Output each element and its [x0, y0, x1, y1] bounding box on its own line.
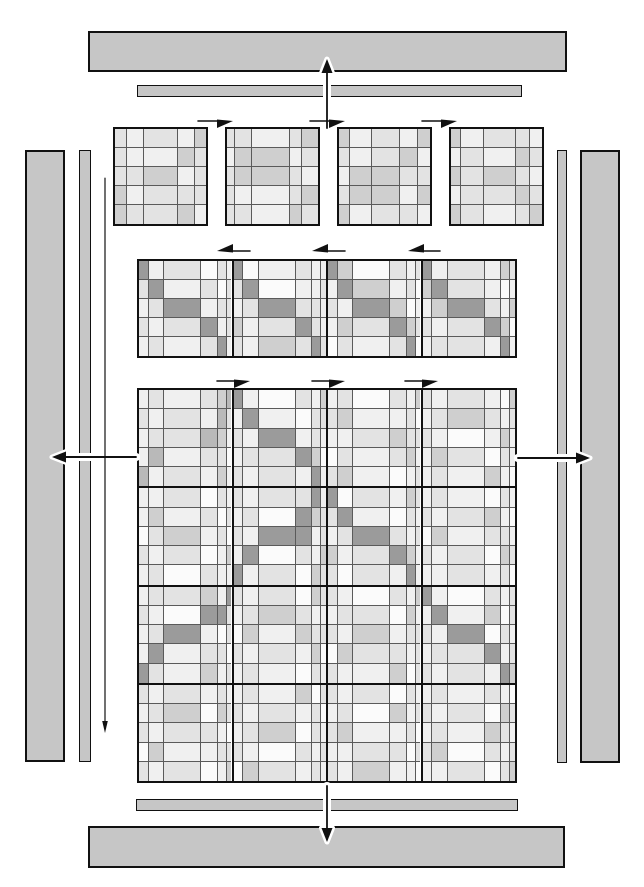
matrix-cell: [139, 704, 149, 723]
matrix-cell: [432, 723, 448, 742]
matrix-cell: [416, 318, 421, 337]
matrix-cell: [321, 587, 326, 606]
matrix-cell: [485, 704, 502, 723]
matrix-cell: [390, 409, 407, 428]
matrix-cell: [218, 299, 227, 318]
matrix-cell: [252, 148, 290, 167]
matrix-cell: [448, 390, 485, 409]
matrix-cell: [353, 723, 390, 742]
matrix-cell: [372, 205, 401, 224]
matrix-cell: [501, 685, 510, 704]
small-matrix-2: [225, 127, 320, 226]
small-matrix-4-block-1-1: [451, 129, 542, 224]
matrix-cell: [516, 148, 529, 167]
matrix-cell: [312, 743, 321, 762]
matrix-cell: [164, 704, 201, 723]
matrix-cell: [510, 606, 515, 625]
matrix-cell: [312, 565, 321, 584]
matrix-cell: [218, 448, 227, 467]
matrix-cell: [485, 488, 502, 507]
matrix-cell: [149, 606, 165, 625]
matrix-cell: [339, 148, 350, 167]
matrix-cell: [201, 467, 218, 486]
matrix-cell: [416, 527, 421, 546]
matrix-cell: [407, 429, 416, 448]
matrix-cell: [201, 546, 218, 565]
matrix-cell: [432, 527, 448, 546]
matrix-cell: [218, 488, 227, 507]
matrix-cell: [407, 337, 416, 356]
matrix-cell: [149, 429, 165, 448]
matrix-cell: [243, 587, 259, 606]
matrix-cell: [485, 508, 502, 527]
matrix-cell: [338, 488, 354, 507]
matrix-cell: [234, 723, 244, 742]
matrix-cell: [243, 565, 259, 584]
matrix-cell: [390, 762, 407, 781]
matrix-cell: [218, 625, 227, 644]
matrix-cell: [234, 743, 244, 762]
matrix-cell: [218, 606, 227, 625]
matrix-cell: [235, 148, 252, 167]
matrix-cell: [234, 527, 244, 546]
matrix-cell: [164, 565, 201, 584]
matrix-cell: [227, 762, 232, 781]
matrix-cell: [218, 565, 227, 584]
matrix-cell: [407, 606, 416, 625]
small-matrix-2-block-1-1: [227, 129, 318, 224]
matrix-cell: [234, 704, 244, 723]
matrix-cell: [227, 205, 235, 224]
matrix-cell: [448, 587, 485, 606]
matrix-cell: [296, 467, 313, 486]
matrix-cell: [432, 448, 448, 467]
matrix-cell: [149, 644, 165, 663]
matrix-cell: [227, 429, 232, 448]
matrix-cell: [400, 205, 417, 224]
matrix-cell: [302, 205, 318, 224]
matrix-cell: [353, 508, 390, 527]
matrix-cell: [407, 527, 416, 546]
matrix-cell: [338, 318, 354, 337]
matrix-cell: [234, 587, 244, 606]
matrix-cell: [201, 743, 218, 762]
matrix-cell: [149, 723, 165, 742]
flow-arrow-strip-1: [205, 239, 262, 263]
matrix-cell: [227, 606, 232, 625]
matrix-cell: [390, 704, 407, 723]
matrix-cell: [530, 205, 542, 224]
matrix-cell: [234, 508, 244, 527]
matrix-cell: [139, 488, 149, 507]
matrix-cell: [328, 664, 338, 683]
matrix-cell: [501, 409, 510, 428]
matrix-cell: [407, 488, 416, 507]
matrix-cell: [164, 280, 201, 299]
matrix-cell: [290, 167, 301, 186]
matrix-cell: [372, 148, 401, 167]
matrix-cell: [144, 129, 178, 148]
matrix-cell: [510, 429, 515, 448]
matrix-cell: [296, 527, 313, 546]
matrix-cell: [201, 261, 218, 280]
matrix-cell: [350, 167, 371, 186]
matrix-cell: [149, 625, 165, 644]
matrix-cell: [372, 129, 401, 148]
matrix-cell: [390, 565, 407, 584]
matrix-cell: [201, 280, 218, 299]
matrix-cell: [510, 299, 515, 318]
matrix-cell: [418, 167, 430, 186]
matrix-cell: [227, 527, 232, 546]
matrix-cell: [234, 762, 244, 781]
matrix-cell: [418, 205, 430, 224]
matrix-cell: [243, 337, 259, 356]
main-matrix-block-3-3: [328, 587, 421, 683]
matrix-cell: [510, 685, 515, 704]
diagram-root: [0, 0, 644, 887]
matrix-cell: [390, 508, 407, 527]
matrix-cell: [149, 587, 165, 606]
matrix-cell: [416, 488, 421, 507]
matrix-cell: [448, 508, 485, 527]
matrix-cell: [350, 205, 371, 224]
matrix-cell: [328, 685, 338, 704]
matrix-cell: [416, 546, 421, 565]
matrix-cell: [353, 762, 390, 781]
